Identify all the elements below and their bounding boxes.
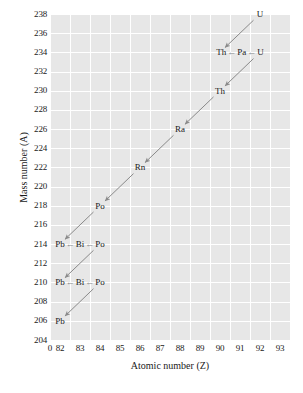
gridline-horizontal [50, 129, 290, 130]
element-label: Bi [76, 278, 85, 287]
x-tick-label: 89 [190, 343, 210, 353]
x-tick-label: 87 [150, 343, 170, 353]
decay-series-chart: Th←Pa←UPb←Bi←PoPb←Bi←PoUThRaRnPoPb 23823… [0, 0, 303, 393]
gridline-horizontal [50, 110, 290, 111]
gridline-vertical [130, 14, 131, 340]
element-label: Ra [175, 125, 185, 134]
x-tick-label: 92 [250, 343, 270, 353]
gridline-horizontal [50, 302, 290, 303]
y-tick-label: 210 [3, 278, 47, 287]
x-tick-label: 93 [270, 343, 290, 353]
gridline-horizontal [50, 225, 290, 226]
y-tick-label: 208 [3, 297, 47, 306]
y-tick-label: 236 [3, 29, 47, 38]
y-tick-label: 234 [3, 48, 47, 57]
left-arrow-icon: ← [66, 240, 75, 249]
y-tick-label: 206 [3, 316, 47, 325]
x-tick-label: 90 [210, 343, 230, 353]
element-label: Pa [237, 48, 246, 57]
element-label: Bi [76, 240, 85, 249]
y-tick-label: 212 [3, 259, 47, 268]
element-label: U [257, 48, 264, 57]
gridline-horizontal [50, 33, 290, 34]
gridline-horizontal [50, 340, 290, 341]
left-arrow-icon: ← [85, 278, 94, 287]
x-axis-ticks: 0828384858687888990919293 [0, 343, 303, 357]
element-label: Rn [135, 163, 146, 172]
element-label: Th [216, 48, 226, 57]
element-label: U [257, 10, 264, 19]
element-label: Po [95, 240, 105, 249]
plot-area: Th←Pa←UPb←Bi←PoPb←Bi←PoUThRaRnPoPb [50, 14, 290, 340]
element-label: Pb [55, 240, 65, 249]
gridline-horizontal [50, 167, 290, 168]
x-tick-label: 85 [110, 343, 130, 353]
gridline-vertical [190, 14, 191, 340]
gridline-horizontal [50, 206, 290, 207]
x-tick-label: 91 [230, 343, 250, 353]
decay-chain-row: Th←Pa←U [216, 48, 264, 57]
decay-chain-row: Pb←Bi←Po [55, 278, 105, 287]
gridline-vertical [150, 14, 151, 340]
gridline-vertical [70, 14, 71, 340]
left-arrow-icon: ← [85, 240, 94, 249]
gridline-horizontal [50, 187, 290, 188]
gridline-vertical [50, 14, 51, 340]
y-tick-label: 232 [3, 67, 47, 76]
element-label: Pb [55, 316, 65, 325]
gridline-vertical [110, 14, 111, 340]
gridline-horizontal [50, 72, 290, 73]
gridline-vertical [230, 14, 231, 340]
decay-chain-row: Pb←Bi←Po [55, 240, 105, 249]
element-label: Th [215, 86, 225, 95]
x-tick-label: 86 [130, 343, 150, 353]
x-tick-label: 83 [70, 343, 90, 353]
gridline-vertical [270, 14, 271, 340]
left-arrow-icon: ← [247, 48, 256, 57]
left-arrow-icon: ← [227, 48, 236, 57]
y-tick-label: 238 [3, 10, 47, 19]
gridline-horizontal [50, 91, 290, 92]
element-label: Po [95, 278, 105, 287]
x-tick-label: 88 [170, 343, 190, 353]
element-label: Po [95, 201, 105, 210]
x-tick-label: 82 [50, 343, 70, 353]
y-axis-title: Mass number (A) [18, 93, 29, 243]
gridline-vertical [290, 14, 291, 340]
element-label: Pb [55, 278, 65, 287]
x-axis-title: Atomic number (Z) [50, 360, 290, 371]
gridline-vertical [210, 14, 211, 340]
gridline-horizontal [50, 14, 290, 15]
gridline-vertical [250, 14, 251, 340]
gridline-vertical [90, 14, 91, 340]
gridline-horizontal [50, 321, 290, 322]
x-tick-label: 84 [90, 343, 110, 353]
gridline-horizontal [50, 148, 290, 149]
gridline-horizontal [50, 263, 290, 264]
gridline-vertical [170, 14, 171, 340]
left-arrow-icon: ← [66, 278, 75, 287]
